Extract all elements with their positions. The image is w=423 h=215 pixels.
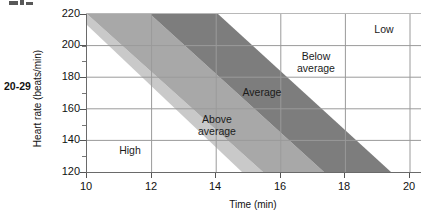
x-tick-label-18: 18 — [324, 180, 364, 192]
x-tick-label-10: 10 — [66, 180, 106, 192]
x-tick-label-16: 16 — [260, 180, 300, 192]
x-tick-label-14: 14 — [195, 180, 235, 192]
x-axis-title: Time (min) — [86, 199, 420, 210]
x-tick-label-20: 20 — [389, 180, 423, 192]
x-tick-label-12: 12 — [131, 180, 171, 192]
x-axis-tick-labels: 10 12 14 16 18 20 — [0, 0, 423, 215]
